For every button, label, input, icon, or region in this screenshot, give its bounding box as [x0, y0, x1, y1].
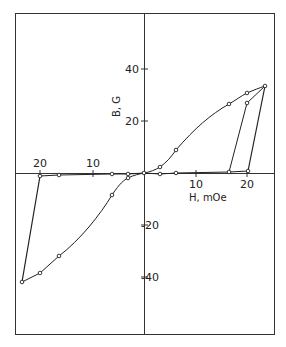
smooth-curve	[22, 86, 265, 282]
data-markers	[20, 84, 267, 284]
positive-outer-branch	[229, 86, 265, 172]
hysteresis-chart: 40 20 -20 -40 20 10 10 20 H, mOe B, G	[0, 0, 286, 347]
y-axis-title: B, G	[111, 96, 122, 117]
ytick-label-20: 20	[125, 115, 139, 128]
x-axis-title: H, mOe	[189, 192, 227, 203]
ytick-label-40: 40	[125, 63, 139, 76]
xtick-label-pos20: 20	[240, 178, 254, 191]
xtick-label-neg10: 10	[86, 157, 100, 170]
xtick-label-neg20: 20	[33, 157, 47, 170]
positive-inner-branch	[144, 86, 265, 174]
ytick-label-neg40: -40	[141, 271, 159, 284]
ytick-label-neg20: -20	[141, 219, 159, 232]
xtick-label-pos10: 10	[189, 178, 203, 191]
negative-branch	[22, 173, 144, 282]
